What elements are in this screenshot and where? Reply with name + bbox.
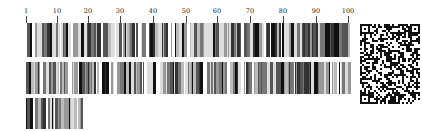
ruler-tick [348,16,349,23]
ruler-label: 40 [149,7,157,15]
ruler-label: 100 [342,7,354,15]
ruler-label: 50 [182,7,190,15]
ruler-label: 1 [24,7,28,15]
ruler-label: 60 [213,7,221,15]
qr-finder-pattern [410,24,420,34]
ruler-tick [283,16,284,23]
ruler-tick [57,16,58,23]
ruler-tick [120,16,121,23]
barcode-row-3 [26,98,83,129]
ruler-tick [316,16,317,23]
ruler-tick [88,16,89,23]
barcode-row-2 [26,62,351,94]
ruler-tick [26,16,27,23]
ruler-label: 70 [246,7,254,15]
qr-finder-pattern [360,94,370,104]
ruler-label: 90 [312,7,320,15]
barcode-row-1 [26,23,351,57]
ruler-tick [250,16,251,23]
ruler-tick [217,16,218,23]
ruler-tick [153,16,154,23]
ruler-label: 20 [84,7,92,15]
ruler-tick [186,16,187,23]
qr-code [360,24,420,104]
qr-finder-pattern [360,24,370,34]
ruler-label: 30 [116,7,124,15]
ruler-label: 10 [53,7,61,15]
ruler-label: 80 [279,7,287,15]
